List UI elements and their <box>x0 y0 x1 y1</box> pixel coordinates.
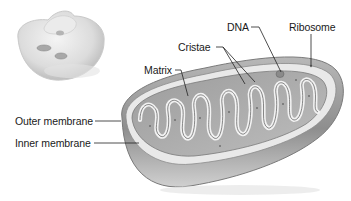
mitochondrion-diagram: DNA Ribosome Cristae Matrix Outer membra… <box>0 0 351 201</box>
label-inner-membrane: Inner membrane <box>15 138 91 149</box>
cell-inset-icon <box>18 11 104 80</box>
mitochondrion-icon <box>122 57 344 195</box>
label-cristae: Cristae <box>178 42 211 53</box>
label-dna: DNA <box>227 22 249 33</box>
label-ribosome: Ribosome <box>289 22 335 33</box>
label-matrix: Matrix <box>144 65 172 76</box>
label-outer-membrane: Outer membrane <box>15 116 93 127</box>
